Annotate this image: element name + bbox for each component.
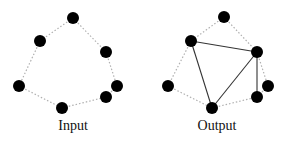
graph-node xyxy=(218,11,230,23)
graph-node xyxy=(56,102,68,114)
graph-node xyxy=(251,46,263,58)
output-label: Output xyxy=(177,118,257,134)
dotted-edge xyxy=(212,97,257,108)
graph-node xyxy=(206,102,218,114)
dotted-edge xyxy=(19,41,40,86)
graph-node xyxy=(185,35,197,47)
graph-node xyxy=(13,80,25,92)
dotted-edge xyxy=(73,18,106,52)
graph-node xyxy=(100,46,112,58)
dotted-edge xyxy=(19,86,62,108)
dotted-edge xyxy=(62,97,106,108)
graph-node xyxy=(34,35,46,47)
solid-edge xyxy=(212,52,257,108)
graph-node xyxy=(251,91,263,103)
dotted-edge xyxy=(168,41,191,86)
graph-node xyxy=(262,80,274,92)
solid-edge xyxy=(191,41,257,52)
dotted-edge xyxy=(224,17,257,52)
dotted-edge xyxy=(191,17,224,41)
graph-node xyxy=(67,12,79,24)
input-label: Input xyxy=(33,118,113,134)
input-graph xyxy=(13,12,123,114)
output-graph xyxy=(162,11,274,114)
graph-node xyxy=(111,80,123,92)
graph-node xyxy=(162,80,174,92)
graph-node xyxy=(100,91,112,103)
solid-edge xyxy=(191,41,212,108)
dotted-edge xyxy=(168,86,212,108)
dotted-edge xyxy=(40,18,73,41)
